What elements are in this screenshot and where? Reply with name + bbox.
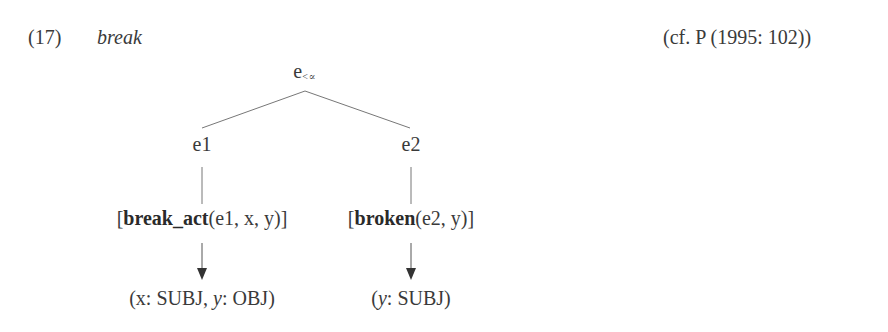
mapping-right: (y: SUBJ) (371, 287, 450, 310)
predicate-args: (e1, x, y) (208, 207, 280, 229)
root-label: e (293, 60, 302, 82)
root-node: e<∝ (293, 60, 316, 83)
bracket-open: [ (117, 207, 124, 229)
paren-open: ( (371, 287, 378, 309)
node-e2: e2 (402, 133, 421, 156)
paren-close: ) (444, 287, 451, 309)
var-y: y (378, 287, 387, 309)
example-word: break (97, 26, 142, 49)
bracket-close: ] (467, 207, 474, 229)
citation: (cf. P (1995: 102)) (663, 26, 811, 49)
predicate-args: (e2, y) (415, 207, 467, 229)
role-obj: : OBJ (222, 287, 268, 309)
arrow-down-icon (406, 268, 416, 280)
tree-lines (0, 0, 888, 332)
paren-open: ( (129, 287, 136, 309)
var-y: y (213, 287, 222, 309)
example-number: (17) (28, 26, 61, 49)
var-x: x (136, 287, 146, 309)
role-subj: : SUBJ, (146, 287, 213, 309)
role-subj: : SUBJ (387, 287, 444, 309)
predicate-name: broken (355, 207, 416, 229)
predicate-right: [broken(e2, y)] (348, 207, 474, 230)
paren-close: ) (268, 287, 275, 309)
branch-right (305, 91, 410, 128)
node-e1: e1 (193, 133, 212, 156)
mapping-left: (x: SUBJ, y: OBJ) (129, 287, 275, 310)
arrow-down-icon (197, 268, 207, 280)
bracket-close: ] (281, 207, 288, 229)
root-subscript: <∝ (302, 71, 316, 82)
branch-left (202, 91, 305, 128)
predicate-name: break_act (123, 207, 208, 229)
bracket-open: [ (348, 207, 355, 229)
predicate-left: [break_act(e1, x, y)] (117, 207, 288, 230)
